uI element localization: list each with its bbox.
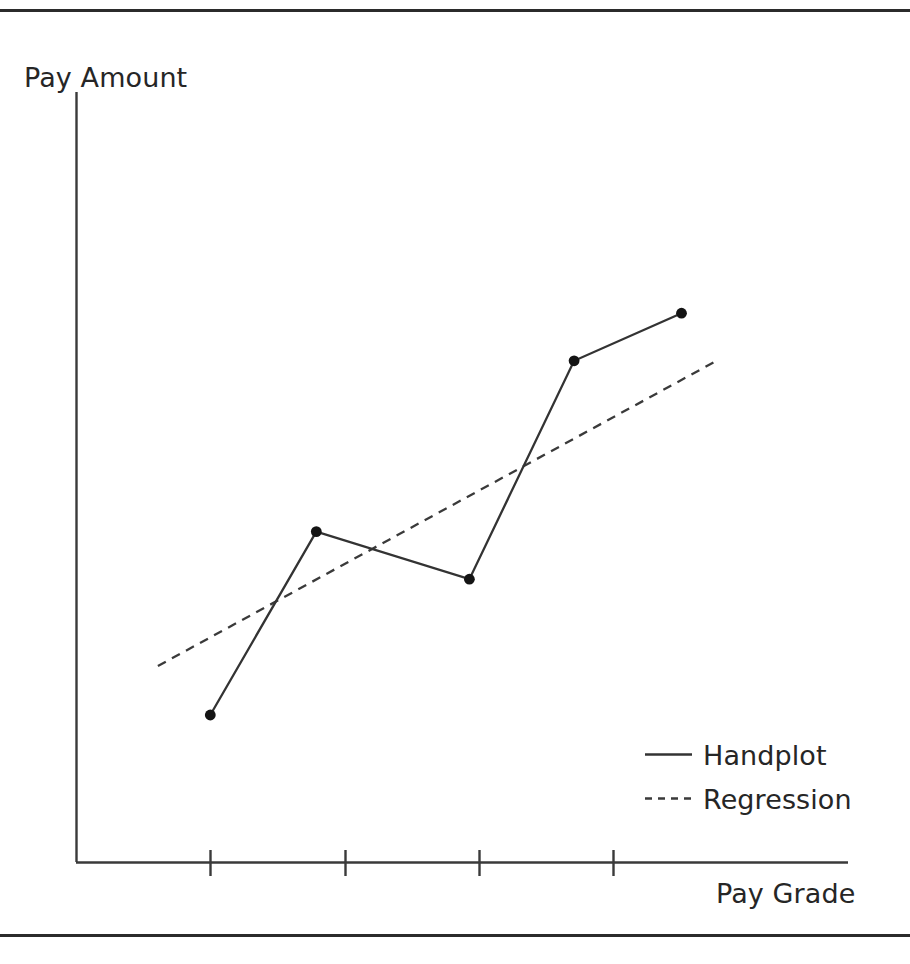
data-point-handplot-5 <box>676 308 687 319</box>
chart-figure: Pay Amount Pay Grade Handplot Regression <box>0 12 910 932</box>
bottom-divider-rule <box>0 934 910 937</box>
data-point-handplot-3 <box>464 574 475 585</box>
legend-label-regression: Regression <box>703 784 852 815</box>
legend-swatches <box>645 755 692 799</box>
series-markers-handplot <box>205 308 687 721</box>
data-point-handplot-2 <box>311 526 322 537</box>
data-point-handplot-4 <box>569 355 580 366</box>
chart-page: Pay Amount Pay Grade Handplot Regression <box>0 0 910 964</box>
series-line-handplot <box>210 313 681 715</box>
series-line-regression <box>158 359 719 666</box>
x-axis-label: Pay Grade <box>716 878 855 909</box>
legend-label-handplot: Handplot <box>703 740 827 771</box>
data-point-handplot-1 <box>205 710 216 721</box>
y-axis-label: Pay Amount <box>24 62 187 93</box>
